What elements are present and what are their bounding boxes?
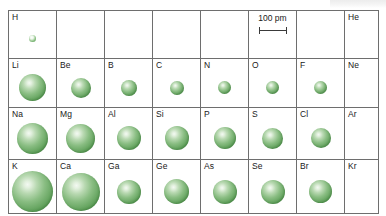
sphere-holder [297, 59, 344, 107]
periodic-table-figure: H100 pmHeLiBeBCNOFNeNaMgAlSiPSClArKCaGaG… [8, 10, 378, 210]
atom-sphere-mg [66, 124, 95, 153]
atom-sphere-ga [117, 180, 141, 204]
atom-sphere-as [213, 180, 237, 204]
table-row: NaMgAlSiPSClAr [9, 108, 379, 160]
table-row: KCaGaGeAsSeBrKr [9, 160, 379, 214]
sphere-holder [9, 11, 56, 58]
scale-bar-tick-left [259, 27, 260, 34]
element-cell-n: N [201, 59, 249, 108]
element-cell-li: Li [9, 59, 57, 108]
atomic-radii-table: H100 pmHeLiBeBCNOFNeNaMgAlSiPSClArKCaGaG… [8, 10, 379, 214]
table-row: H100 pmHe [9, 11, 379, 59]
atom-sphere-br [309, 180, 332, 203]
element-cell-br: Br [297, 160, 345, 214]
sphere-holder [9, 59, 56, 107]
scale-bar-ruler [259, 27, 287, 34]
element-cell-k: K [9, 160, 57, 214]
element-cell-o: O [249, 59, 297, 108]
element-cell-p: P [201, 108, 249, 160]
sphere-holder [201, 160, 248, 213]
sphere-holder [9, 160, 56, 213]
table-body: H100 pmHeLiBeBCNOFNeNaMgAlSiPSClArKCaGaG… [9, 11, 379, 214]
atom-sphere-al [117, 126, 141, 150]
table-row: LiBeBCNOFNe [9, 59, 379, 108]
element-cell-si: Si [153, 108, 201, 160]
sphere-holder [153, 108, 200, 159]
sphere-holder [201, 108, 248, 159]
sphere-holder [57, 160, 104, 213]
element-cell-ar: Ar [345, 108, 379, 160]
scale-bar-tick-right [286, 27, 287, 34]
empty-cell [297, 11, 345, 59]
sphere-holder [297, 160, 344, 213]
atom-sphere-s [262, 128, 283, 149]
element-symbol: Kr [348, 161, 357, 171]
element-cell-se: Se [249, 160, 297, 214]
element-cell-kr: Kr [345, 160, 379, 214]
scale-cell: 100 pm [249, 11, 297, 59]
element-cell-he: He [345, 11, 379, 59]
atom-sphere-h [29, 35, 36, 42]
element-cell-ga: Ga [105, 160, 153, 214]
atom-sphere-na [17, 123, 48, 154]
element-cell-ge: Ge [153, 160, 201, 214]
sphere-holder [105, 108, 152, 159]
element-cell-ca: Ca [57, 160, 105, 214]
atom-sphere-f [314, 81, 327, 94]
sphere-holder [249, 160, 296, 213]
element-cell-h: H [9, 11, 57, 59]
empty-cell [105, 11, 153, 59]
scale-bar-line [259, 30, 287, 31]
atom-sphere-li [19, 74, 46, 101]
sphere-holder [249, 108, 296, 159]
sphere-holder [201, 59, 248, 107]
empty-cell [57, 11, 105, 59]
atom-sphere-k [12, 171, 53, 212]
atom-sphere-cl [311, 128, 331, 148]
sphere-holder [57, 108, 104, 159]
atom-sphere-si [165, 126, 189, 150]
atom-sphere-n [218, 81, 231, 94]
atom-sphere-ca [62, 173, 100, 211]
sphere-holder [105, 59, 152, 107]
element-cell-b: B [105, 59, 153, 108]
element-symbol: He [348, 12, 359, 22]
scale-bar: 100 pm [249, 13, 296, 34]
atom-sphere-o [266, 81, 279, 94]
sphere-holder [153, 160, 200, 213]
atom-sphere-be [71, 78, 91, 98]
empty-cell [201, 11, 249, 59]
element-cell-al: Al [105, 108, 153, 160]
scan-artifact [330, 0, 386, 8]
sphere-holder [105, 160, 152, 213]
atom-sphere-c [170, 81, 184, 95]
element-cell-cl: Cl [297, 108, 345, 160]
atom-sphere-p [214, 127, 236, 149]
element-cell-mg: Mg [57, 108, 105, 160]
sphere-holder [297, 108, 344, 159]
sphere-holder [9, 108, 56, 159]
atom-sphere-ge [164, 179, 189, 204]
element-cell-c: C [153, 59, 201, 108]
element-cell-ne: Ne [345, 59, 379, 108]
element-cell-be: Be [57, 59, 105, 108]
empty-cell [153, 11, 201, 59]
element-symbol: Ar [348, 109, 357, 119]
element-cell-s: S [249, 108, 297, 160]
sphere-holder [153, 59, 200, 107]
scale-bar-label: 100 pm [258, 13, 286, 24]
element-cell-as: As [201, 160, 249, 214]
element-symbol: Ne [348, 60, 359, 70]
sphere-holder [57, 59, 104, 107]
element-cell-na: Na [9, 108, 57, 160]
atom-sphere-b [121, 80, 137, 96]
atom-sphere-se [261, 180, 285, 204]
sphere-holder [249, 59, 296, 107]
element-cell-f: F [297, 59, 345, 108]
